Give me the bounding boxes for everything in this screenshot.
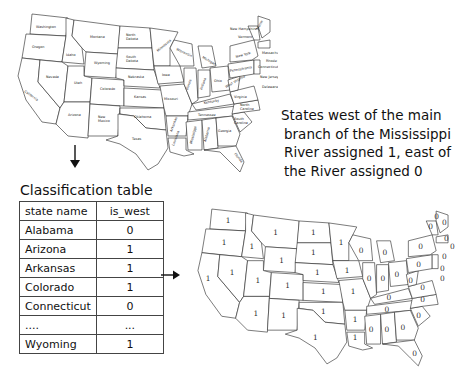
svg-text:0: 0 [442, 218, 447, 227]
svg-text:Carolina: Carolina [240, 107, 254, 111]
svg-text:0: 0 [408, 276, 413, 285]
svg-text:0: 0 [420, 283, 425, 292]
svg-text:1: 1 [339, 238, 344, 247]
note-line-2: branch of the Mississippi [284, 125, 454, 144]
svg-text:Oregon: Oregon [32, 45, 44, 49]
classified-us-map: 1 1 1 1 1 1 1 1 1 1 1 1 1 1 1 1 1 1 1 1 … [188, 196, 456, 371]
svg-text:1: 1 [353, 333, 358, 342]
svg-text:0: 0 [420, 295, 425, 304]
svg-text:Dakota: Dakota [126, 37, 138, 41]
svg-text:1: 1 [273, 228, 278, 237]
svg-text:0: 0 [434, 212, 439, 221]
svg-text:0: 0 [416, 311, 421, 320]
svg-text:0: 0 [428, 222, 433, 231]
svg-text:0: 0 [416, 260, 421, 269]
cell-value: 1 [96, 259, 163, 278]
svg-text:Wyoming: Wyoming [94, 61, 110, 65]
svg-text:New Hampshire: New Hampshire [230, 27, 257, 31]
note-line-1: States west of the main [281, 106, 454, 125]
svg-text:Nevada: Nevada [46, 75, 59, 79]
svg-text:Ohio: Ohio [214, 79, 222, 83]
cell-state: .... [20, 316, 97, 335]
note-line-4: the River assigned 0 [284, 162, 454, 181]
right-arrow-icon [161, 265, 181, 284]
cell-value: ... [96, 316, 163, 335]
svg-text:Rhode Island: Rhode Island [266, 59, 278, 63]
svg-text:Mexico: Mexico [98, 119, 110, 123]
svg-text:0: 0 [400, 323, 405, 332]
svg-text:1: 1 [321, 307, 326, 316]
svg-text:1: 1 [255, 276, 260, 285]
svg-text:Utah: Utah [74, 81, 82, 85]
svg-text:Arizona: Arizona [68, 113, 81, 117]
labeled-us-map: Washington Oregon California Idaho Nevad… [8, 4, 278, 174]
svg-text:1: 1 [353, 315, 358, 324]
svg-text:Texas: Texas [131, 137, 142, 141]
svg-text:1: 1 [313, 333, 318, 342]
table-row: Arizona 1 [20, 240, 164, 259]
svg-text:1: 1 [345, 266, 350, 275]
svg-text:Nebraska: Nebraska [128, 75, 144, 79]
svg-text:1: 1 [222, 238, 227, 247]
table-title: Classification table [20, 182, 153, 198]
svg-text:1: 1 [281, 311, 286, 320]
svg-text:0: 0 [418, 242, 423, 251]
cell-value: 1 [96, 240, 163, 259]
svg-text:1: 1 [315, 268, 320, 277]
svg-text:0: 0 [440, 274, 445, 283]
svg-text:Washington: Washington [36, 25, 56, 29]
svg-text:1: 1 [206, 274, 211, 283]
down-arrow-icon [69, 145, 81, 173]
svg-text:1: 1 [230, 268, 235, 277]
svg-text:Kansas: Kansas [134, 95, 146, 99]
svg-text:Idaho: Idaho [66, 53, 75, 57]
table-row: .... ... [20, 316, 164, 335]
svg-text:Carolina: Carolina [234, 121, 248, 125]
svg-text:Iowa: Iowa [162, 73, 170, 77]
svg-text:0: 0 [442, 252, 447, 261]
svg-text:Georgia: Georgia [218, 129, 231, 133]
cell-value: 0 [96, 221, 163, 240]
svg-text:Colorado: Colorado [100, 87, 115, 91]
svg-text:1: 1 [321, 287, 326, 296]
cell-state: Arizona [20, 240, 97, 259]
cell-value: 1 [96, 278, 163, 297]
svg-text:0: 0 [444, 234, 449, 243]
table-row: Colorado 1 [20, 278, 164, 297]
table-row: Connecticut 0 [20, 297, 164, 316]
svg-text:0: 0 [387, 293, 392, 302]
svg-text:1: 1 [311, 228, 316, 237]
svg-text:0: 0 [359, 246, 364, 255]
svg-text:0: 0 [385, 305, 390, 314]
svg-text:New Jersey: New Jersey [260, 75, 278, 79]
svg-text:0: 0 [394, 270, 399, 279]
svg-text:Tennessee: Tennessee [197, 113, 216, 117]
svg-text:1: 1 [351, 287, 356, 296]
cell-state: Arkansas [20, 259, 97, 278]
svg-text:Vermont: Vermont [238, 35, 253, 39]
map-outline [18, 14, 270, 172]
svg-text:1: 1 [285, 281, 290, 290]
svg-text:0: 0 [412, 349, 417, 358]
cell-state: Alabama [20, 221, 97, 240]
cell-value: 0 [96, 297, 163, 316]
svg-text:0: 0 [381, 274, 386, 283]
svg-text:Montana: Montana [90, 35, 105, 39]
cell-value: 1 [96, 335, 163, 354]
svg-text:Massachusetts: Massachusetts [262, 51, 278, 55]
svg-text:1: 1 [226, 216, 231, 225]
header-state-name: state name [20, 202, 97, 221]
svg-text:1: 1 [250, 242, 255, 251]
svg-text:0: 0 [440, 264, 445, 273]
cell-state: Connecticut [20, 297, 97, 316]
svg-text:0: 0 [369, 325, 374, 334]
cell-state: Colorado [20, 278, 97, 297]
svg-text:1: 1 [254, 309, 259, 318]
note-line-3: River assigned 1, east of [284, 143, 454, 162]
table-row: Wyoming 1 [20, 335, 164, 354]
svg-text:Missouri: Missouri [164, 97, 178, 101]
svg-text:1: 1 [279, 256, 284, 265]
svg-text:0: 0 [385, 325, 390, 334]
svg-text:Dakota: Dakota [126, 59, 138, 63]
classification-table: state name is_west Alabama 0 Arizona 1 A… [19, 201, 164, 354]
